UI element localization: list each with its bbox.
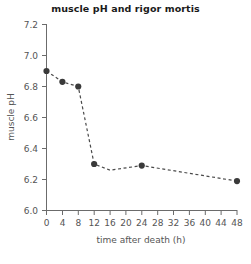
data-point — [139, 162, 145, 168]
data-point — [75, 83, 81, 89]
data-point — [91, 161, 97, 167]
x-tick-label-28: 28 — [152, 218, 164, 228]
x-tick-label-48: 48 — [231, 218, 243, 228]
y-tick-label-7-2: 7.2 — [24, 20, 38, 30]
x-tick-label-12: 12 — [88, 218, 99, 228]
data-point — [43, 68, 49, 74]
y-tick-label-6-2: 6.2 — [24, 175, 38, 185]
x-tick-label-0: 0 — [44, 218, 50, 228]
data-series-muscle-ph — [43, 68, 240, 184]
x-tick-label-16: 16 — [104, 218, 116, 228]
x-tick-label-44: 44 — [215, 218, 227, 228]
y-tick-label-7-0: 7.0 — [24, 51, 39, 61]
y-tick-label-6-8: 6.8 — [24, 82, 39, 92]
chart-plot-area: 7.2 7.0 6.8 6.6 6.4 6.2 6.0 muscle pH 0 … — [0, 0, 251, 264]
data-point — [59, 79, 65, 85]
x-tick-label-20: 20 — [120, 218, 132, 228]
x-tick-label-4: 4 — [60, 218, 66, 228]
y-tick-label-6-6: 6.6 — [24, 113, 39, 123]
x-tick-label-36: 36 — [184, 218, 196, 228]
x-tick-label-24: 24 — [136, 218, 148, 228]
y-tick-label-6-0: 6.0 — [24, 206, 39, 216]
y-tick-label-6-4: 6.4 — [24, 144, 39, 154]
chart-container: muscle pH and rigor mortis 7.2 7.0 6.8 6… — [0, 0, 251, 264]
x-tick-label-8: 8 — [75, 218, 81, 228]
data-point — [234, 178, 240, 184]
x-tick-label-32: 32 — [168, 218, 179, 228]
x-tick-label-40: 40 — [200, 218, 212, 228]
y-axis-ticks — [42, 25, 46, 211]
x-axis-title: time after death (h) — [97, 235, 186, 245]
y-axis-title: muscle pH — [6, 93, 16, 141]
